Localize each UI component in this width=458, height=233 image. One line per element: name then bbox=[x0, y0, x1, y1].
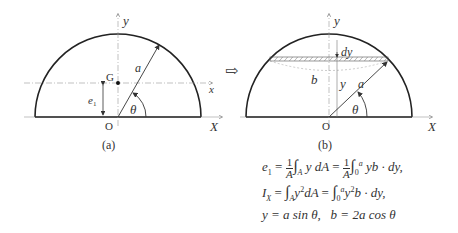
theta-label-a: θ bbox=[130, 102, 137, 117]
centroid-point bbox=[116, 81, 120, 85]
theta-label-b: θ bbox=[352, 102, 359, 117]
e1-label: e1 bbox=[88, 94, 97, 108]
formula-Ix: IX = ∫Ay2dA = ∫0ay2b · dy, bbox=[262, 183, 385, 203]
diagram-canvas: y x X O G a θ e1 (a) ⇨ y dy b y a θ X O … bbox=[0, 0, 458, 233]
caption-a: (a) bbox=[102, 138, 115, 152]
formula-substitution: y = a sin θ, b = 2a cos θ bbox=[262, 207, 396, 223]
y-height-label: y bbox=[338, 76, 346, 91]
radius-line-a bbox=[118, 45, 159, 117]
origin-label-a: O bbox=[105, 120, 113, 132]
y-axis-label-b: y bbox=[332, 13, 340, 28]
y-axis-label-a: y bbox=[121, 13, 129, 28]
hatched-strip bbox=[270, 57, 388, 61]
radius-label-a: a bbox=[135, 61, 141, 75]
origin-label-b: O bbox=[322, 120, 330, 132]
X-axis-label-b: X bbox=[427, 119, 437, 134]
figure-b: y dy b y a θ X O (b) bbox=[240, 13, 437, 152]
figure-a: y x X O G a θ e1 (a) bbox=[24, 13, 222, 152]
centroid-label: G bbox=[106, 71, 114, 83]
theta-arc-b bbox=[358, 92, 367, 117]
formula-e1: e1 = 1A∫A y dA = 1A∫0a yb · dy, bbox=[262, 157, 403, 180]
b-label: b bbox=[311, 72, 318, 87]
dy-label: dy bbox=[341, 45, 353, 59]
x-axis-label-a: x bbox=[208, 83, 214, 95]
radius-label-b: a bbox=[358, 77, 364, 91]
X-axis-label-a: X bbox=[209, 119, 219, 134]
transition-arrow-icon: ⇨ bbox=[225, 61, 238, 80]
caption-b: (b) bbox=[318, 138, 332, 152]
